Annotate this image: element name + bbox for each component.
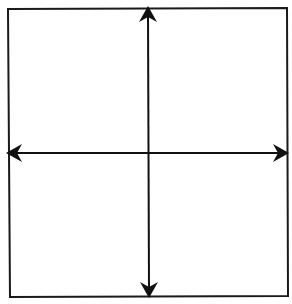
- vertical-axis-line: [148, 14, 149, 290]
- coordinate-plane-diagram: [0, 0, 292, 304]
